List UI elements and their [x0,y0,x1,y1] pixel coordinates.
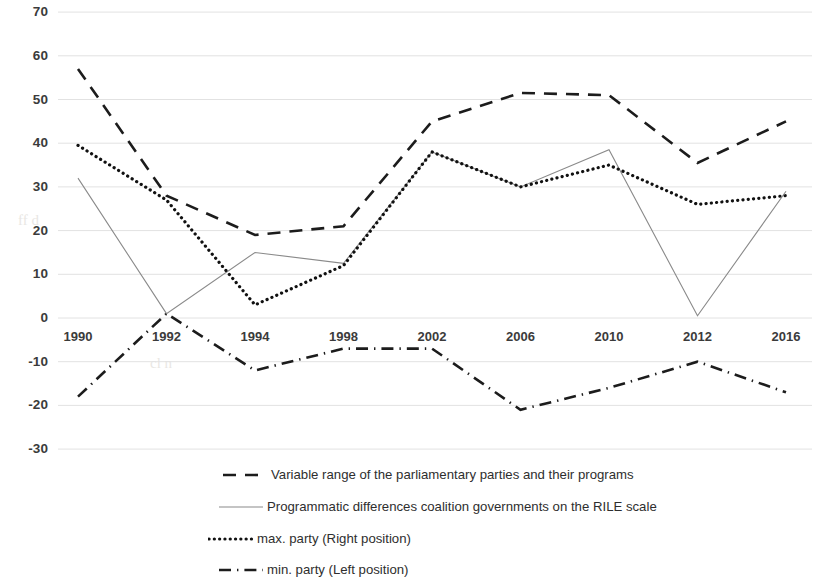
legend-label-3: min. party (Left position) [264,563,408,578]
legend-item-3[interactable]: min. party (Left position) [218,561,408,579]
gridlines [58,12,812,449]
data-series-group [78,69,786,410]
series-line-2 [78,145,786,305]
chart-legend: Variable range of the parliamentary part… [0,458,826,569]
legend-label-0: Variable range of the parliamentary part… [268,468,634,483]
legend-item-1[interactable]: Programmatic differences coalition gover… [218,498,657,516]
dashdot-line-swatch [218,563,264,577]
legend-item-2[interactable]: max. party (Right position) [208,530,411,548]
series-line-1 [78,150,786,316]
dotted-line-swatch [208,532,254,546]
legend-label-1: Programmatic differences coalition gover… [264,500,657,515]
legend-label-2: max. party (Right position) [254,532,411,547]
dashed-line-swatch [222,468,268,482]
solid-line-swatch [218,500,264,514]
legend-item-0[interactable]: Variable range of the parliamentary part… [222,466,634,484]
